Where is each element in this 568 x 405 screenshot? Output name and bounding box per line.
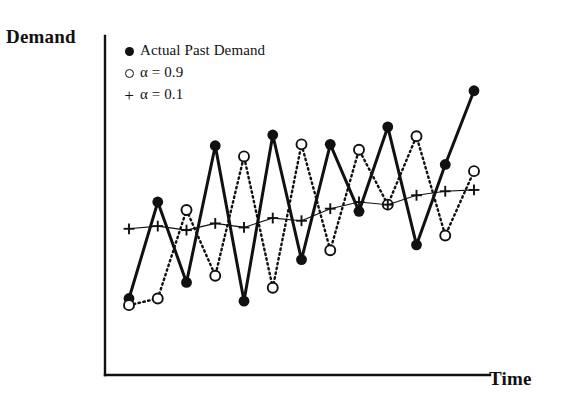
data-series-group	[124, 85, 480, 310]
series-filled-circle	[124, 85, 480, 306]
plot-area	[0, 0, 568, 405]
chart-figure: Demand Time Actual Past Demand α = 0.9 +…	[0, 0, 568, 405]
axes-lines	[105, 36, 490, 375]
series-plus	[124, 185, 480, 236]
